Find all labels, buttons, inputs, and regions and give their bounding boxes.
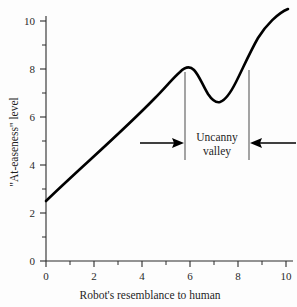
y-tick-label-2: 2	[30, 207, 36, 219]
uncanny-valley-chart: 0 2 4 6 8 10 0 2 4 6 8 10	[0, 0, 297, 307]
x-axis-minor-ticks	[70, 261, 262, 265]
y-tick-label-10: 10	[24, 15, 36, 27]
chart-canvas: 0 2 4 6 8 10 0 2 4 6 8 10	[0, 0, 297, 307]
data-curve	[46, 9, 288, 201]
x-tick-label-6: 6	[187, 270, 193, 282]
x-axis-tick-labels: 0 2 4 6 8 10	[43, 270, 292, 282]
y-tick-label-4: 4	[30, 159, 36, 171]
x-tick-label-10: 10	[281, 270, 293, 282]
y-axis-minor-ticks	[42, 45, 46, 237]
x-tick-label-2: 2	[91, 270, 97, 282]
uncanny-valley-label: Uncanny valley	[196, 131, 238, 158]
y-tick-label-0: 0	[30, 255, 36, 267]
axes-group	[46, 16, 293, 261]
y-axis-title: "At-easeness" level	[8, 97, 20, 187]
uncanny-valley-left-arrow	[140, 138, 184, 148]
uncanny-valley-label-line1: Uncanny	[196, 131, 238, 144]
uncanny-valley-label-line2: valley	[203, 145, 231, 158]
y-tick-label-6: 6	[30, 111, 36, 123]
x-tick-label-8: 8	[235, 270, 241, 282]
x-tick-label-4: 4	[139, 270, 145, 282]
y-axis-tick-labels: 0 2 4 6 8 10	[24, 15, 36, 267]
x-axis-title: Robot's resemblance to human	[80, 289, 221, 301]
x-tick-label-0: 0	[43, 270, 49, 282]
uncanny-valley-right-arrow	[250, 138, 296, 148]
y-tick-label-8: 8	[30, 63, 36, 75]
